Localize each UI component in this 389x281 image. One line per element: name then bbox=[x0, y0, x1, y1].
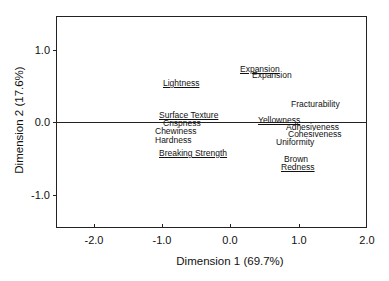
y-tick bbox=[53, 195, 57, 196]
x-tick bbox=[299, 224, 300, 228]
y-tick bbox=[53, 122, 57, 123]
point-label-fracturability: Fracturability bbox=[291, 100, 340, 109]
x-tick-label: 0.0 bbox=[210, 234, 250, 246]
x-tick bbox=[94, 224, 95, 228]
point-label-redness: Redness bbox=[281, 163, 315, 172]
x-tick bbox=[162, 224, 163, 228]
x-axis-title: Dimension 1 (69.7%) bbox=[160, 255, 300, 267]
y-tick bbox=[53, 50, 57, 51]
x-tick-label: 2.0 bbox=[347, 234, 387, 246]
pca-biplot: 1.0 0.0 -1.0 -2.0 -1.0 0.0 1.0 2.0 Dimen… bbox=[0, 0, 389, 281]
y-tick-label: -1.0 bbox=[10, 189, 50, 201]
x-tick-label: -1.0 bbox=[142, 234, 182, 246]
x-tick bbox=[230, 224, 231, 228]
point-label-uniformity: Uniformity bbox=[276, 138, 314, 147]
point-label-expansion-2: Expansion bbox=[252, 71, 292, 80]
y-axis-title: Dimension 2 (17.6%) bbox=[13, 55, 25, 185]
x-tick-label: -2.0 bbox=[74, 234, 114, 246]
point-label-breaking-strength: Breaking Strength bbox=[159, 149, 227, 158]
x-tick-label: 1.0 bbox=[279, 234, 319, 246]
point-label-lightness: Lightness bbox=[163, 79, 199, 88]
point-label-hardness: Hardness bbox=[155, 136, 191, 145]
